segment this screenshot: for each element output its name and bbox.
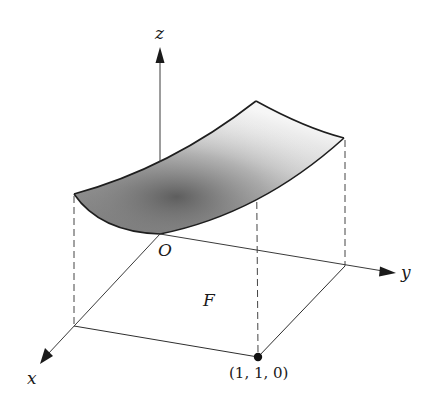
x-axis <box>48 234 160 354</box>
y-axis-arrow-icon <box>379 267 396 277</box>
z-axis-label: z <box>154 23 165 43</box>
corner-point-dot <box>254 353 262 361</box>
floor-edge-y1 <box>258 266 345 357</box>
surface <box>74 101 344 234</box>
surface-shading <box>74 101 344 234</box>
origin-label: O <box>158 240 172 260</box>
y-axis-label: y <box>400 262 411 282</box>
floor-edge-x1 <box>74 326 258 357</box>
corner-point-label: (1, 1, 0) <box>229 364 288 382</box>
region-label: F <box>202 290 216 310</box>
z-axis-arrow-icon <box>156 47 165 63</box>
y-axis <box>160 234 383 271</box>
surface-diagram: z y x O F (1, 1, 0) <box>0 0 441 405</box>
x-axis-label: x <box>27 368 37 388</box>
floor-region <box>74 266 345 357</box>
